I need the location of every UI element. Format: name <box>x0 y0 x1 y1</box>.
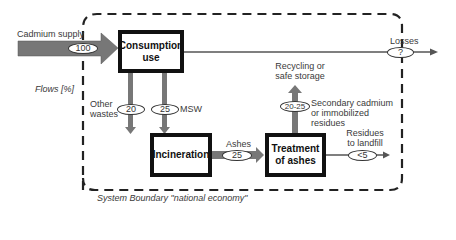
flows-unit-label: Flows [%] <box>35 84 74 94</box>
losses-arrowhead <box>430 49 438 56</box>
other-wastes-label: Other wastes <box>90 99 118 119</box>
ashes-value: 25 <box>222 150 252 161</box>
cadmium-supply-label: Cadmium supply <box>17 29 84 39</box>
ashes-label: Ashes <box>226 139 251 149</box>
process-treatment-of-ashes: Treatment of ashes <box>265 133 326 177</box>
other-wastes-value: 20 <box>117 104 145 115</box>
losses-value: ? <box>387 47 414 58</box>
system-boundary-label: System Boundary "national economy" <box>97 193 247 203</box>
process-consumption: Consumption use <box>118 30 184 73</box>
recycling-label: Recycling or safe storage <box>268 61 332 81</box>
losses-label: Losses <box>390 36 419 46</box>
msw-label: MSW <box>180 104 202 114</box>
landfill-value: <5 <box>348 150 377 161</box>
cadmium-supply-value: 100 <box>68 43 98 54</box>
msw-value: 25 <box>151 104 179 115</box>
process-incineration: Incineration <box>150 133 212 177</box>
landfill-label: Residues to landfill <box>342 128 388 148</box>
secondary-cadmium-note: Secondary cadmium or immobilized residue… <box>311 98 403 128</box>
recycling-value: 20-25 <box>280 101 310 112</box>
